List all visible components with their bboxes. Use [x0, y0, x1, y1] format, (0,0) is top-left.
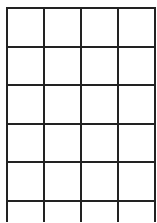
grid-cell: [8, 163, 45, 202]
grid-cell: [8, 202, 45, 223]
grid-cell: [119, 9, 156, 48]
grid-cell: [82, 48, 119, 87]
grid-cell: [8, 86, 45, 125]
grid-cell: [119, 125, 156, 164]
grid-cell: [45, 9, 82, 48]
grid-cell: [119, 163, 156, 202]
grid-cell: [45, 125, 82, 164]
grid-cell: [82, 163, 119, 202]
grid-cell: [45, 86, 82, 125]
grid-cell: [82, 86, 119, 125]
grid-cell: [8, 125, 45, 164]
grid-cell: [8, 9, 45, 48]
grid-cell: [45, 48, 82, 87]
grid-cell: [119, 48, 156, 87]
grid-cell: [119, 202, 156, 223]
grid-cell: [45, 202, 82, 223]
grid-cell: [119, 86, 156, 125]
grid-cell: [82, 125, 119, 164]
grid-cell: [8, 48, 45, 87]
grid-cell: [82, 202, 119, 223]
empty-grid-table: [6, 7, 156, 222]
grid-cell: [82, 9, 119, 48]
grid-cell: [45, 163, 82, 202]
canvas: [0, 0, 157, 222]
